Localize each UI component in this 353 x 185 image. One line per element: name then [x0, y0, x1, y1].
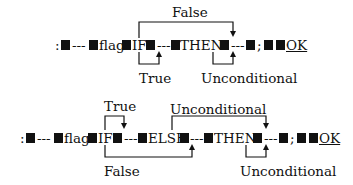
unconditional-bottom-line [246, 145, 266, 157]
cell-block [122, 40, 131, 50]
cell-block [89, 40, 98, 50]
cell-block [171, 40, 180, 50]
dash-token: --- [264, 130, 278, 146]
dash-token: --- [231, 37, 245, 53]
true-branch-line [139, 52, 159, 64]
flag-token: flag [99, 37, 125, 53]
branch-arrows [0, 0, 353, 185]
if-token: IF [98, 130, 113, 146]
colon-token: : [20, 130, 25, 146]
ok-token: OK [319, 130, 340, 146]
cell-block [180, 133, 189, 143]
cell-block [26, 133, 35, 143]
unconditional-top-label: Unconditional [170, 101, 266, 117]
cell-block [113, 133, 122, 143]
if-then-token-row: : --- flag IF --- THEN --- ; OK [0, 37, 353, 53]
cursor-block [309, 133, 318, 143]
dash-token: --- [37, 130, 51, 146]
ok-token: OK [286, 37, 307, 53]
true-label: True [104, 98, 136, 114]
dash-token: --- [124, 130, 138, 146]
cursor-block [276, 40, 285, 50]
false-branch-line [139, 22, 233, 38]
cell-block [138, 133, 147, 143]
then-token: THEN [214, 130, 256, 146]
semicolon-token: ; [257, 37, 262, 53]
cell-block [220, 40, 229, 50]
cell-block [204, 133, 213, 143]
false-branch-line-2 [105, 145, 192, 157]
cell-block [88, 133, 97, 143]
unconditional-top-line [172, 116, 266, 130]
cell-block [297, 133, 306, 143]
cell-block [61, 40, 70, 50]
colon-token: : [55, 37, 60, 53]
true-label: True [139, 70, 171, 86]
cell-block [279, 133, 288, 143]
dash-token: --- [72, 37, 86, 53]
unconditional-bottom-label: Unconditional [240, 163, 336, 179]
cell-block [253, 133, 262, 143]
cell-block [264, 40, 273, 50]
if-else-then-token-row: : --- flag IF --- ELSE --- THEN --- ; OK [0, 130, 353, 146]
dash-token: --- [190, 130, 204, 146]
cell-block [146, 40, 155, 50]
cell-block [246, 40, 255, 50]
unconditional-branch-line [213, 52, 233, 64]
cell-block [54, 133, 63, 143]
false-label: False [172, 4, 208, 20]
unconditional-label: Unconditional [201, 70, 297, 86]
if-token: IF [132, 37, 147, 53]
dash-token: --- [157, 37, 171, 53]
false-label: False [104, 163, 140, 179]
flag-token: flag [64, 130, 90, 146]
semicolon-token: ; [290, 130, 295, 146]
then-token: THEN [180, 37, 222, 53]
